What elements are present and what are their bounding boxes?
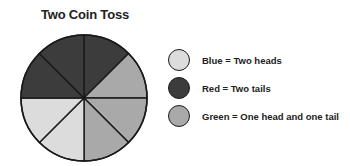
legend-swatch-red xyxy=(168,77,190,99)
chart-title: Two Coin Toss xyxy=(0,7,170,22)
pie-chart xyxy=(19,33,149,163)
legend-item-blue: Blue = Two heads xyxy=(168,48,282,72)
legend-label-blue: Blue = Two heads xyxy=(202,55,282,66)
legend-item-red: Red = Two tails xyxy=(168,76,271,100)
legend-label-red: Red = Two tails xyxy=(202,83,271,94)
legend-swatch-green xyxy=(168,105,190,127)
legend-item-green: Green = One head and one tail xyxy=(168,104,339,128)
legend-swatch-blue xyxy=(168,49,190,71)
legend-label-green: Green = One head and one tail xyxy=(202,111,339,122)
